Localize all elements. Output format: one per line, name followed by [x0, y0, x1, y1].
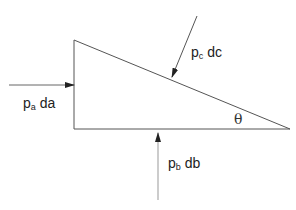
label-c-differential: dc: [203, 44, 222, 60]
label-a-differential: da: [36, 95, 55, 111]
force-label-b: pb db: [168, 156, 200, 172]
angle-theta-label: θ: [234, 112, 242, 126]
force-label-a: pa da: [23, 96, 55, 112]
label-a-symbol: p: [23, 95, 31, 111]
label-c-symbol: p: [191, 44, 199, 60]
force-label-c: pc dc: [191, 45, 222, 61]
label-b-differential: db: [181, 155, 200, 171]
label-b-symbol: p: [168, 155, 176, 171]
